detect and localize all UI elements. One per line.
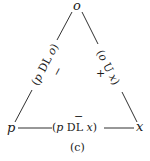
- edge-left-upper: [57, 12, 72, 40]
- triangle-edges: [0, 0, 150, 161]
- node-x: x: [136, 120, 143, 133]
- edge-left-lower: [15, 90, 32, 122]
- figure-caption: (c): [70, 142, 85, 153]
- edge-right-lower: [122, 92, 137, 122]
- edge-bottom-sign: −: [74, 111, 83, 122]
- edge-bottom-label: (p DL x): [52, 122, 97, 133]
- node-o: o: [73, 0, 81, 12]
- paren-close: ): [93, 121, 97, 134]
- edge-right-sign: +: [96, 68, 105, 79]
- pox-triangle-diagram: o p x (p DL o) − (o U x) + (p DL x) − (c…: [0, 0, 150, 161]
- edge-right-upper: [82, 12, 98, 44]
- node-p: p: [7, 121, 15, 134]
